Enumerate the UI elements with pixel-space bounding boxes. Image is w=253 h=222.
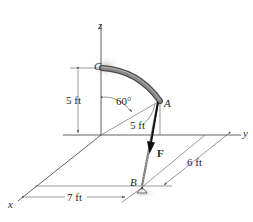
diagram-figure: z y x 5 ft 60° 5 ft C A F B 6 ft: [0, 0, 253, 222]
z-axis-label: z: [97, 19, 103, 31]
coordinate-axes: [18, 24, 241, 201]
radius-label: 5 ft: [130, 119, 145, 131]
x-axis-label: x: [7, 198, 13, 210]
ground-construction-lines: [35, 135, 205, 188]
point-c-label: C: [94, 60, 102, 72]
dimension-7ft: [25, 188, 142, 202]
angle-label: 60°: [116, 95, 131, 107]
point-a-label: A: [163, 97, 171, 109]
point-b-label: B: [130, 176, 137, 188]
y-axis-label: y: [242, 127, 248, 139]
x-axis: [18, 135, 101, 201]
dimension-6ft-label: 6 ft: [187, 156, 202, 168]
dimension-7ft-label: 7 ft: [67, 191, 82, 203]
height-dimension-label: 5 ft: [66, 94, 81, 106]
force-label: F: [157, 147, 164, 159]
